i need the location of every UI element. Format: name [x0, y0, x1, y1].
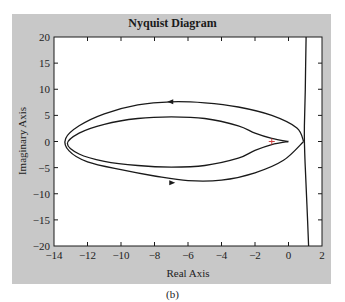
x-tick-label: −6: [182, 249, 194, 261]
x-axis-label: Real Axis: [166, 267, 209, 279]
nyquist-chart: −14−12−10−8−6−4−202−20−15−10−505101520 R…: [0, 0, 345, 302]
x-tick-label: 2: [319, 249, 325, 261]
y-tick-label: 10: [39, 83, 51, 95]
y-tick-label: 5: [45, 109, 51, 121]
x-tick-label: −2: [249, 249, 261, 261]
y-tick-label: −15: [33, 214, 51, 226]
y-tick-label: 15: [39, 57, 51, 69]
x-tick-label: −10: [112, 249, 130, 261]
y-tick-label: 20: [39, 31, 51, 43]
y-tick-label: −20: [33, 240, 51, 252]
y-axis-label: Imaginary Axis: [16, 107, 28, 175]
plot-area: [54, 37, 322, 246]
y-tick-label: 0: [45, 136, 51, 148]
x-tick-label: −12: [79, 249, 96, 261]
y-tick-label: −10: [33, 188, 51, 200]
x-tick-label: 0: [286, 249, 292, 261]
figure-caption: (b): [0, 288, 345, 300]
y-tick-label: −5: [38, 162, 50, 174]
x-tick-label: −8: [149, 249, 161, 261]
x-tick-label: −4: [216, 249, 228, 261]
